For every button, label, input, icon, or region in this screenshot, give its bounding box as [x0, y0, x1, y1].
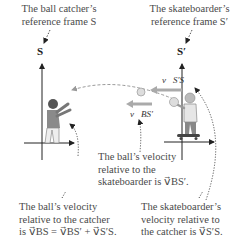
ball-rel-skater-pointer — [139, 120, 141, 152]
skater-rel-catcher-line1: The skateboarder’s — [141, 201, 223, 214]
skateboard — [177, 134, 200, 137]
catcher-label-pointer — [44, 30, 50, 43]
ball-midflight — [137, 88, 145, 96]
ball-rel-skater-label: The ball’s velocity relative to the skat… — [98, 151, 189, 189]
skater-dotted-arrow — [195, 88, 216, 200]
ball-rel-catcher-line2: relative to the catcher — [19, 214, 117, 227]
ball-rel-catcher-line3: is v⃗BS = v⃗BS′ + v⃗S′S. — [19, 226, 117, 239]
axis-label-s: S — [37, 45, 43, 57]
v-bs-prime-label: v⃗BS′ — [130, 109, 153, 119]
ball-rel-catcher-line1: The ball’s velocity — [19, 201, 117, 214]
skater-rel-catcher-line3: the catcher is v⃗S′S. — [141, 226, 223, 239]
catcher-dotted-arrow — [70, 124, 78, 156]
v-ss-arrow — [150, 86, 182, 94]
skateboarder-figure — [176, 93, 200, 140]
v-bs-prime-arrow — [126, 100, 152, 108]
axis-label-s-prime: S′ — [177, 45, 186, 57]
ball-rel-skater-line2: relative to the — [98, 164, 189, 177]
ball-catcher-figure — [45, 99, 70, 143]
skater-rel-catcher-line2: velocity relative to — [141, 214, 223, 227]
ball-rel-catcher-pointer — [62, 191, 66, 198]
skater-rel-catcher-label: The skateboarder’s velocity relative to … — [141, 201, 223, 239]
skater-rel-catcher-pointer — [199, 191, 203, 198]
v-ss-label: v⃗S′S — [162, 75, 184, 85]
ball-rel-skater-line3: skateboarder is v⃗BS′. — [98, 176, 189, 189]
ball-at-skater — [170, 98, 179, 107]
ball-rel-skater-line1: The ball’s velocity — [98, 151, 189, 164]
ball-trajectory — [72, 85, 178, 101]
ball-rel-catcher-label: The ball’s velocity relative to the catc… — [19, 201, 117, 239]
skater-label-pointer — [186, 30, 192, 43]
